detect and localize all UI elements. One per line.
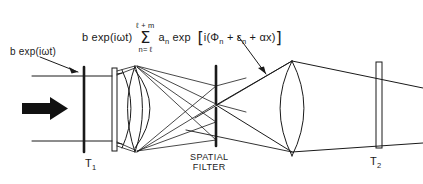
spatial-filter-label-line2: FILTER — [190, 162, 228, 172]
output-plane-label-text: T — [370, 155, 377, 167]
spatial-filter-label: SPATIAL FILTER — [190, 152, 228, 172]
output-lens-left-face — [280, 61, 292, 156]
output-plane-label: T2 — [370, 156, 382, 170]
ray-fan-from-top-vertex — [137, 66, 216, 140]
cone-lower-long — [186, 130, 292, 152]
first-lens — [122, 70, 150, 148]
formula-prefix: b exp(iωt) — [82, 31, 132, 43]
optics-figure: b exp(iωt)ℓ + mΣn= ℓan exp [i(Φn + εn + … — [0, 0, 423, 184]
formula-coefficient-subscript: n — [165, 37, 169, 46]
main-formula: b exp(iωt)ℓ + mΣn= ℓan exp [i(Φn + εn + … — [82, 22, 282, 54]
bracket-close: ] — [276, 28, 282, 47]
formula-plus-2: + αx) — [246, 31, 275, 43]
cone-lower-to-lens — [216, 105, 292, 152]
beam-direction-arrow — [22, 97, 68, 120]
output-plane-t2 — [376, 62, 382, 148]
formula-body-1: i(Φ — [204, 31, 219, 43]
source-annotation-arrow — [40, 57, 78, 74]
spatial-filter-label-line1: SPATIAL — [190, 152, 228, 162]
cone-upper-long — [195, 61, 292, 118]
output-ray-bottom — [292, 143, 423, 152]
output-plane-label-subscript: 2 — [377, 161, 381, 170]
input-plane-label-subscript: 1 — [92, 163, 96, 172]
formula-plus-1: + ε — [224, 31, 242, 43]
ray-fan-beyond-filter — [216, 78, 246, 112]
ray-in-top-a — [117, 66, 135, 71]
input-plane-label: T1 — [85, 158, 97, 172]
phase-plate — [112, 68, 117, 151]
sum-lower-limit: n= ℓ — [136, 46, 154, 54]
input-plane-label-text: T — [85, 157, 92, 169]
formula-exp-label: exp — [173, 31, 191, 43]
source-label: b exp(iωt) — [10, 47, 56, 57]
sigma-glyph: Σ — [136, 30, 154, 46]
output-lens-right-face — [292, 61, 304, 156]
output-ray-top — [292, 61, 423, 88]
summation-symbol: ℓ + mΣn= ℓ — [136, 22, 154, 54]
